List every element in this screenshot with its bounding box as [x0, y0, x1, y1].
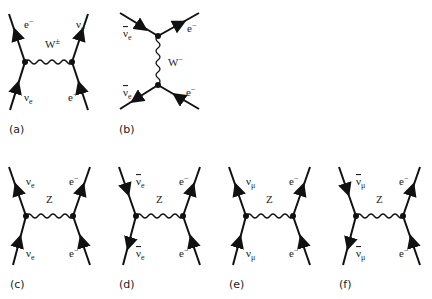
arrow-icon — [410, 189, 412, 195]
caption-c: (c) — [10, 278, 25, 291]
diagram-c: νe e− Z νe e− (c) — [9, 167, 90, 291]
vertex-dot — [155, 33, 161, 39]
arrow-icon — [16, 34, 18, 40]
label-electron: e− — [69, 246, 79, 259]
label-boson: W− — [168, 55, 183, 68]
label-electron: e− — [179, 246, 189, 259]
arrow-icon — [82, 241, 84, 248]
arrow-icon — [125, 184, 127, 190]
label-muon-neutrino: νμ — [246, 247, 255, 262]
diagram-d: νe e− Z νe e− (d) — [119, 167, 200, 291]
diagram-e: νμ e− Z νμ e− (e) — [229, 167, 310, 291]
label-electron-neutrino: νe — [76, 18, 85, 33]
boson-propagator — [25, 60, 72, 64]
arrow-icon — [17, 189, 19, 195]
diagram-f: νμ e− Z νμ e− (f) — [339, 167, 420, 291]
caption-d: (d) — [119, 278, 135, 291]
boson-propagator — [246, 214, 293, 218]
arrow-icon — [79, 34, 81, 40]
arrow-icon — [302, 241, 304, 248]
label-electron-antineutrino: νe — [136, 175, 145, 190]
vertex-dot — [22, 59, 28, 65]
arrow-icon — [300, 189, 302, 195]
label-electron: e− — [399, 246, 409, 259]
arrow-icon — [174, 24, 180, 27]
caption-a: (a) — [9, 123, 24, 136]
label-boson: Z — [46, 193, 53, 205]
label-electron-neutrino: νe — [26, 175, 35, 190]
label-electron-neutrino: νe — [26, 247, 35, 262]
label-muon-neutrino: νμ — [246, 175, 255, 190]
boson-propagator — [156, 36, 160, 85]
boson-propagator — [136, 214, 183, 218]
arrow-icon — [190, 189, 192, 195]
arrow-icon — [412, 241, 414, 248]
label-electron-antineutrino: νe — [123, 86, 132, 101]
label-boson: W± — [45, 37, 60, 50]
label-electron: e− — [289, 246, 299, 259]
label-electron-neutrino: νe — [24, 91, 33, 106]
label-electron-antineutrino: νe — [123, 27, 132, 42]
diagram-b: νe e− W− νe e− (b) — [119, 13, 199, 136]
fermion-line-bottom-right — [72, 62, 88, 110]
label-electron: e− — [69, 174, 79, 187]
caption-f: (f) — [339, 278, 351, 291]
label-electron: e− — [187, 21, 197, 34]
arrow-icon — [237, 189, 239, 195]
arrow-icon — [80, 189, 82, 195]
arrow-icon — [192, 241, 194, 248]
label-boson: Z — [156, 193, 163, 205]
arrow-icon — [345, 184, 347, 190]
fermion-line-bottom-left — [10, 62, 25, 110]
label-electron: e− — [399, 174, 409, 187]
label-electron-antineutrino: νe — [136, 247, 145, 262]
label-electron: e− — [186, 85, 196, 98]
label-electron: e− — [24, 17, 34, 30]
arrow-icon — [15, 87, 17, 94]
vertex-dot — [69, 59, 75, 65]
diagram-a: e− νe W± νe e− (a) — [9, 14, 88, 136]
feynman-diagrams-figure: e− νe W± νe e− (a) νe e− W− νe e− (b) — [0, 0, 432, 299]
boson-propagator — [26, 214, 73, 218]
caption-e: (e) — [229, 278, 244, 291]
label-boson: Z — [266, 193, 273, 205]
label-muon-antineutrino: νμ — [356, 175, 365, 190]
label-boson: Z — [376, 193, 383, 205]
boson-propagator — [356, 214, 403, 218]
arrow-icon — [136, 95, 142, 99]
label-electron: e− — [289, 174, 299, 187]
label-muon-antineutrino: νμ — [356, 247, 365, 262]
caption-b: (b) — [119, 123, 135, 136]
label-electron: e− — [179, 174, 189, 187]
label-electron: e− — [68, 90, 78, 103]
vertex-dot — [155, 82, 161, 88]
